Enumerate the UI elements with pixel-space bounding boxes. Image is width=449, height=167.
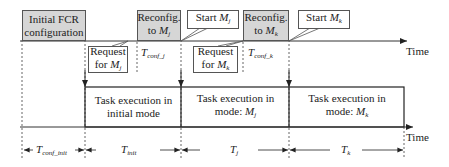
request-mj-callout: Requestfor Mj — [88, 46, 128, 73]
top-time-label: Time — [406, 45, 429, 57]
box-line1: Reconfig. — [137, 11, 180, 23]
sub: j — [254, 111, 256, 119]
reconfig-mk-box: Reconfig.to Mk — [243, 10, 289, 41]
start-mk-callout: Start Mk — [298, 10, 350, 29]
var: M — [159, 24, 168, 36]
task-initial-mode: Task execution ininitial mode — [86, 88, 181, 126]
line1: Task execution in — [197, 92, 274, 104]
box-line2: configuration — [24, 26, 83, 38]
line2: initial mode — [107, 107, 160, 119]
prefix: Start — [196, 11, 220, 23]
t-conf-j-label: Tconf_j — [141, 46, 165, 60]
bottom-time-label: Time — [406, 131, 429, 143]
t-init-label: Tinit — [121, 143, 136, 157]
start-mj-callout: Start Mj — [187, 10, 239, 29]
var: M — [217, 58, 226, 70]
sub: j — [168, 30, 170, 38]
sub: k — [365, 111, 368, 119]
box-prefix: to — [254, 24, 265, 36]
sub: k — [226, 64, 229, 72]
box-prefix: to — [148, 24, 159, 36]
line1: Request — [90, 45, 125, 57]
initial-fcr-config-box: Initial FCRconfiguration — [22, 10, 86, 41]
t-conf-k-label: Tconf_k — [248, 46, 273, 60]
sub: k — [275, 30, 278, 38]
request-mk-callout: Requestfor Mk — [193, 46, 238, 73]
prefix: for — [95, 58, 111, 70]
box-line1: Initial FCR — [29, 13, 79, 25]
line1: Request — [198, 45, 233, 57]
t-j-label: Tj — [230, 143, 238, 157]
sub: k — [339, 17, 342, 25]
line1: Task execution in — [95, 94, 172, 106]
var: M — [219, 11, 228, 23]
box-line1: Reconfig. — [244, 11, 287, 23]
prefix: mode: — [215, 105, 245, 117]
task-mode-mj: Task execution inmode: Mj — [182, 88, 289, 126]
t-conf-init-label: Tconf_init — [36, 143, 67, 157]
line1: Task execution in — [308, 92, 385, 104]
prefix: mode: — [326, 105, 356, 117]
sub: j — [119, 64, 121, 72]
t-k-label: Tk — [341, 143, 350, 157]
sub: j — [228, 17, 230, 25]
task-mode-mk: Task execution inmode: Mk — [290, 88, 404, 126]
reconfig-mj-box: Reconfig.to Mj — [137, 10, 181, 41]
var: M — [245, 105, 254, 117]
var: M — [330, 11, 339, 23]
var: M — [110, 58, 119, 70]
var: M — [266, 24, 275, 36]
prefix: for — [202, 58, 218, 70]
prefix: Start — [306, 11, 330, 23]
var: M — [356, 105, 365, 117]
